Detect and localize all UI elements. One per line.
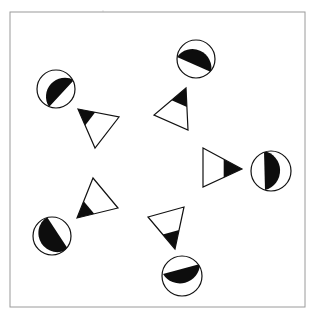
half-dark-circle — [251, 151, 291, 191]
half-dark-circle — [33, 217, 71, 255]
half-dark-circle — [162, 256, 202, 296]
half-dark-circle — [177, 40, 215, 78]
scan-speck — [102, 10, 103, 11]
half-dark-circle — [37, 70, 75, 108]
figure-canvas — [0, 0, 311, 310]
